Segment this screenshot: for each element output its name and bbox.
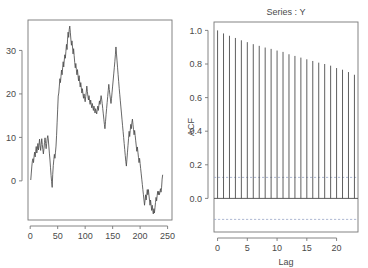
x-axis-label: Lag [278, 257, 293, 267]
timeseries-line [31, 26, 163, 214]
y-tick-label: 0.6 [189, 93, 202, 103]
x-tick-label: 0 [215, 243, 220, 253]
x-tick-label: 0 [28, 231, 33, 241]
x-tick-label: 10 [272, 243, 282, 253]
x-tick-label: 100 [78, 231, 93, 241]
x-tick-label: 150 [105, 231, 120, 241]
x-axis: 050100150200250 [28, 226, 175, 241]
x-tick-label: 250 [160, 231, 175, 241]
timeseries-svg: 0102030050100150200250 [0, 0, 184, 268]
y-tick-label: 0.2 [189, 160, 202, 170]
acf-panel: Series : Y0.00.20.40.60.81.0ACF05101520L… [184, 0, 368, 268]
x-axis: 05101520 [215, 238, 342, 253]
y-tick-label: 0 [11, 176, 16, 186]
timeseries-panel: 0102030050100150200250 [0, 0, 184, 268]
chart-title: Series : Y [267, 7, 306, 17]
y-tick-label: 10 [6, 133, 16, 143]
x-tick-label: 50 [53, 231, 63, 241]
acf-spikes [218, 30, 355, 198]
x-tick-label: 5 [245, 243, 250, 253]
y-axis: 0.00.20.40.60.81.0 [189, 26, 208, 204]
r-plot-figure: 0102030050100150200250 Series : Y0.00.20… [0, 0, 368, 268]
y-axis: 0102030 [6, 46, 22, 186]
y-tick-label: 0.0 [189, 194, 202, 204]
acf-svg: Series : Y0.00.20.40.60.81.0ACF05101520L… [184, 0, 368, 268]
y-tick-label: 0.8 [189, 59, 202, 69]
y-tick-label: 20 [6, 89, 16, 99]
y-axis-label: ACF [186, 117, 196, 136]
plot-box [28, 20, 172, 220]
y-tick-label: 1.0 [189, 26, 202, 36]
x-tick-label: 15 [302, 243, 312, 253]
y-tick-label: 30 [6, 46, 16, 56]
x-tick-label: 20 [332, 243, 342, 253]
x-tick-label: 200 [133, 231, 148, 241]
